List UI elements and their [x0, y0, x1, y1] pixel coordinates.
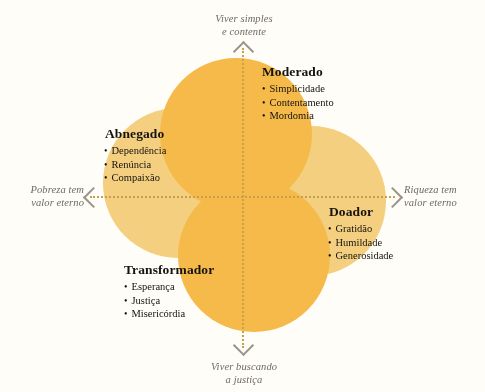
- axis-label-bottom: Viver buscando a justiça: [180, 360, 308, 386]
- axis-label-bottom-line1: Viver buscando: [180, 360, 308, 373]
- list-item: Dependência: [104, 144, 166, 158]
- axis-label-right-line1: Riqueza tem: [404, 183, 484, 196]
- list-item: Generosidade: [328, 249, 393, 263]
- arrow-down-icon: [233, 335, 254, 356]
- axis-label-right-line2: valor eterno: [404, 196, 484, 209]
- quadrant-doador-title: Doador: [329, 204, 393, 220]
- list-item: Renúncia: [104, 158, 166, 172]
- vertical-axis: [242, 48, 244, 348]
- horizontal-axis: [90, 196, 395, 198]
- list-item: Compaixão: [104, 171, 166, 185]
- quadrant-moderado-list: Simplicidade Contentamento Mordomia: [262, 82, 334, 123]
- axis-label-left: Pobreza tem valor eterno: [8, 183, 84, 209]
- axis-label-left-line1: Pobreza tem: [8, 183, 84, 196]
- list-item: Mordomia: [262, 109, 334, 123]
- quadrant-moderado: Moderado Simplicidade Contentamento Mord…: [262, 64, 334, 123]
- arrow-left-icon: [83, 187, 104, 208]
- list-item: Misericórdia: [124, 307, 214, 321]
- quadrant-abnegado-title: Abnegado: [105, 126, 166, 142]
- quadrant-transformador-list: Esperança Justiça Misericórdia: [124, 280, 214, 321]
- axis-label-top-line2: e contente: [180, 25, 308, 38]
- list-item: Simplicidade: [262, 82, 334, 96]
- quadrant-transformador: Transformador Esperança Justiça Misericó…: [124, 262, 214, 321]
- quadrant-doador: Doador Gratidão Humildade Generosidade: [328, 204, 393, 263]
- list-item: Justiça: [124, 294, 214, 308]
- list-item: Contentamento: [262, 96, 334, 110]
- list-item: Gratidão: [328, 222, 393, 236]
- quadrant-diagram: Viver simples e contente Viver buscando …: [0, 0, 485, 392]
- axis-label-bottom-line2: a justiça: [180, 373, 308, 386]
- axis-label-right: Riqueza tem valor eterno: [404, 183, 484, 209]
- quadrant-abnegado-list: Dependência Renúncia Compaixão: [104, 144, 166, 185]
- axis-label-left-line2: valor eterno: [8, 196, 84, 209]
- axis-label-top-line1: Viver simples: [180, 12, 308, 25]
- quadrant-abnegado: Abnegado Dependência Renúncia Compaixão: [104, 126, 166, 185]
- quadrant-moderado-title: Moderado: [262, 64, 334, 80]
- quadrant-doador-list: Gratidão Humildade Generosidade: [328, 222, 393, 263]
- list-item: Esperança: [124, 280, 214, 294]
- axis-label-top: Viver simples e contente: [180, 12, 308, 38]
- quadrant-transformador-title: Transformador: [124, 262, 214, 278]
- list-item: Humildade: [328, 236, 393, 250]
